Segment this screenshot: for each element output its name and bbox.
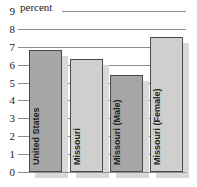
bar-chart: 0123456789 percent United StatesMissouri… [0,0,197,187]
y-axis-tick-label: 4 [3,95,15,106]
bar: Missouri (Female) [150,37,183,172]
y-axis-tick-label: 5 [3,78,15,89]
y-axis-tick-label: 0 [3,167,15,178]
bar-label: Missouri [73,128,82,165]
gridline [62,11,186,12]
bar: Missouri [70,59,103,172]
y-axis-tick-label: 1 [3,149,15,160]
bar-label: Missouri (Male) [113,99,122,165]
gridline [18,29,186,30]
y-axis-tick-label: 2 [3,131,15,142]
axis-baseline [18,172,186,173]
y-axis-tick-label: 6 [3,60,15,71]
y-axis-tick-label: 7 [3,42,15,53]
bar: Missouri (Male) [110,75,143,172]
percent-axis-caption: percent [20,2,52,13]
y-axis-tick-label: 3 [3,113,15,124]
bar: United States [29,50,62,172]
bar-label: United States [32,107,41,165]
y-axis-tick-label: 9 [3,6,15,17]
bar-label: Missouri (Female) [153,88,162,165]
y-axis-tick-label: 8 [3,24,15,35]
